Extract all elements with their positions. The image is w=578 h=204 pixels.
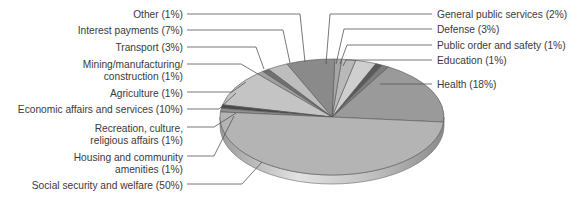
leader-line: [187, 30, 290, 63]
label-housing-line2: amenities (1%): [115, 164, 183, 175]
label-recreation-line1: Recreation, culture,: [95, 123, 183, 134]
leader-line: [187, 14, 305, 62]
leader-line: [336, 29, 432, 64]
label-economic-affairs: Economic affairs and services (10%): [18, 104, 183, 115]
pie-slices: [220, 59, 444, 175]
label-health: Health (18%): [437, 79, 496, 90]
label-other: Other (1%): [133, 9, 183, 20]
label-agriculture: Agriculture (1%): [110, 88, 183, 99]
label-transport: Transport (3%): [115, 42, 183, 53]
label-social-security: Social security and welfare (50%): [32, 180, 183, 191]
label-mining-line2: construction (1%): [104, 71, 183, 82]
label-defense: Defense (3%): [437, 24, 499, 35]
label-mining-line1: Mining/manufacturing/: [83, 59, 183, 70]
leader-line: [187, 64, 258, 74]
label-public-order-and-safety: Public order and safety (1%): [437, 40, 566, 51]
pie-chart: General public services (2%) Defense (3%…: [0, 0, 578, 204]
label-recreation-line2: religious affairs (1%): [90, 135, 183, 146]
label-general-public-services: General public services (2%): [437, 9, 567, 20]
label-housing-line1: Housing and community: [74, 152, 183, 163]
leader-line: [187, 47, 264, 69]
label-education: Education (1%): [437, 55, 507, 66]
label-interest-payments: Interest payments (7%): [78, 25, 183, 36]
